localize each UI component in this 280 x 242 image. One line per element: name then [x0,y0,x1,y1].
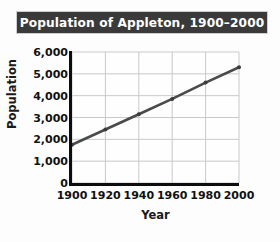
chart-figure: Population of Appleton, 1900–2000 Popula… [0,0,280,242]
series-line [72,67,239,145]
y-tick-label: 0 [24,177,68,190]
y-tick-label: 5,000 [24,67,68,80]
y-tick-label: 6,000 [24,46,68,59]
chart-title-bar: Population of Appleton, 1900–2000 [16,11,268,34]
data-series-line [72,52,239,183]
y-axis-spine [69,51,72,184]
y-axis-label: Population [5,69,19,129]
x-axis-tick-labels: 190019201940196019802000 [72,189,239,205]
data-point-marker [170,97,174,101]
page-title: Population of Appleton, 1900–2000 [20,16,265,30]
y-tick-label: 2,000 [24,133,68,146]
data-point-marker [237,65,241,69]
data-point-marker [103,128,107,132]
x-axis-label: Year [72,208,239,222]
y-axis-tick-labels: 01,0002,0003,0004,0005,0006,000 [20,52,68,183]
x-tick-label: 2000 [217,189,261,202]
y-tick-label: 1,000 [24,155,68,168]
x-axis-spine [69,183,239,186]
y-tick-label: 3,000 [24,111,68,124]
data-point-marker [204,81,208,85]
y-tick-label: 4,000 [24,89,68,102]
data-point-marker [137,112,141,116]
plot-area [72,52,239,183]
